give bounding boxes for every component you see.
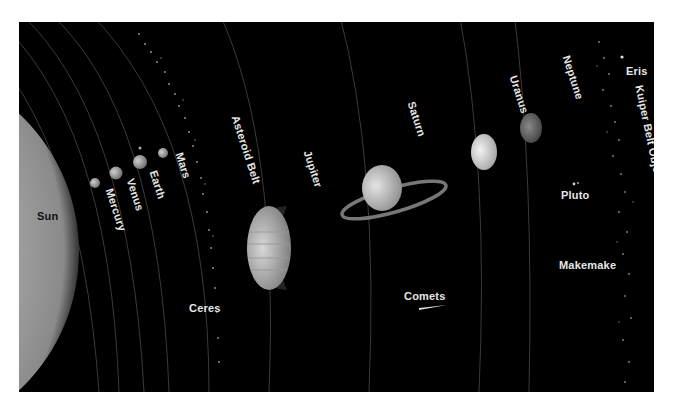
comet-icon: [419, 305, 447, 310]
kuiper-belt-dots: [596, 41, 633, 383]
sun-icon: [19, 62, 79, 392]
venus-icon: [110, 167, 123, 180]
uranus-icon: [471, 134, 497, 170]
label-makemake: Makemake: [559, 259, 616, 271]
jupiter-icon: [247, 206, 291, 290]
mars-icon: [158, 148, 168, 158]
orbit-lines: [19, 22, 530, 392]
saturn-icon: [362, 165, 402, 211]
label-pluto: Pluto: [561, 189, 590, 201]
label-sun: Sun: [37, 210, 58, 222]
label-ceres: Ceres: [189, 302, 221, 314]
moon-icon: [139, 147, 142, 150]
neptune-icon: [520, 113, 542, 143]
mercury-icon: [90, 178, 100, 188]
eris-icon: [620, 55, 623, 58]
label-comets: Comets: [404, 290, 446, 302]
pluto-icon: [573, 183, 576, 186]
label-eris: Eris: [626, 65, 648, 77]
charon-icon: [577, 182, 579, 184]
solar-system-diagram: Sun Mercury Venus Earth Mars Asteroid Be…: [19, 22, 654, 392]
earth-icon: [133, 155, 147, 169]
